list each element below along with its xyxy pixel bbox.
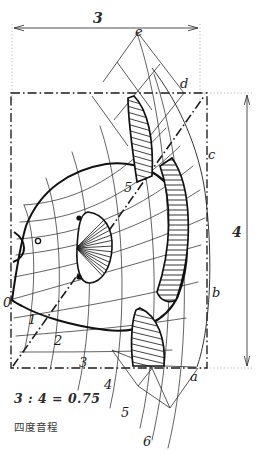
grid-label-5: 5 [121,405,129,420]
vertical-dimension-arrow [244,95,249,366]
grid-label-2: 2 [53,333,62,348]
arc-label-b: b [212,285,220,300]
grid-label-6: 6 [143,434,151,449]
grid-label-0: 0 [3,295,11,310]
chladni-figure-svg: 3 4 [0,0,262,453]
figure-canvas: 3 4 [0,0,262,453]
vertical-dimension-label: 4 [232,224,242,240]
ratio-caption: 3 : 4 = 0.75 [14,391,100,406]
horizontal-dimension-arrow [14,25,198,31]
arc-label-e: e [135,24,143,39]
grid-label-3: 3 [79,355,87,370]
hatched-blob-center [76,210,114,288]
interior-node-label: 5 [124,180,132,195]
hatched-crescent-right [150,158,200,302]
arc-label-d: d [180,76,188,91]
grid-label-4: 4 [103,377,112,392]
chinese-caption: 四度音程 [14,419,58,434]
center-marker-icon [35,238,40,243]
grid-label-1: 1 [28,312,36,327]
arc-label-a: a [190,369,198,384]
horizontal-dimension-label: 3 [93,10,103,26]
arc-label-c: c [208,147,216,162]
